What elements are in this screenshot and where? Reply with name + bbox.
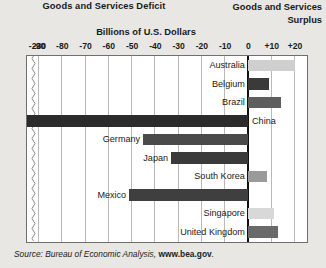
bar-singapore — [248, 208, 274, 219]
chart-figure: Goods and Services Deficit Goods and Ser… — [0, 0, 326, 268]
chart-row: Brazil — [27, 93, 307, 112]
bar-united-kingdom — [248, 226, 278, 237]
chart-row: Mexico — [27, 186, 307, 205]
axis-title: Billions of U.S. Dollars — [30, 27, 262, 37]
bar-label-belgium: Belgium — [212, 79, 245, 89]
chart-row: Japan — [27, 149, 307, 168]
surplus-heading: Goods and Services Surplus — [196, 1, 322, 26]
x-tick-minus40: -40 — [149, 41, 161, 51]
bar-label-singapore: Singapore — [203, 208, 244, 218]
chart-row: Australia — [27, 56, 307, 75]
bar-mexico — [129, 189, 248, 200]
chart-row: China — [27, 112, 307, 131]
surplus-heading-line2: Surplus — [196, 14, 322, 27]
source-suffix: . — [212, 249, 214, 259]
bar-label-china: China — [252, 116, 276, 126]
x-tick-minus70: -70 — [79, 41, 91, 51]
bar-label-mexico: Mexico — [97, 190, 126, 200]
surplus-heading-line1: Goods and Services — [196, 1, 322, 14]
chart-row: South Korea — [27, 167, 307, 186]
x-tick-minus30: -30 — [172, 41, 184, 51]
chart-row: Germany — [27, 130, 307, 149]
bar-label-south-korea: South Korea — [194, 171, 245, 181]
x-tick-plus10: +10 — [264, 41, 279, 51]
bar-germany — [143, 134, 248, 145]
bar-australia — [248, 60, 295, 71]
bar-belgium — [248, 78, 269, 89]
x-tick-minus10: -10 — [219, 41, 231, 51]
x-tick-minus50: -50 — [126, 41, 138, 51]
plot-area: AustraliaBelgiumBrazilChinaGermanyJapanS… — [26, 55, 308, 243]
x-tick-minus20: -20 — [196, 41, 208, 51]
x-tick-0: 0 — [246, 41, 251, 51]
source-website: www.bea.gov — [158, 249, 211, 259]
chart-row: Belgium — [27, 75, 307, 94]
bar-label-germany: Germany — [103, 134, 140, 144]
x-tick-minus60: -60 — [103, 41, 115, 51]
chart-row: United Kingdom — [27, 223, 307, 242]
bar-label-japan: Japan — [143, 153, 168, 163]
bar-japan — [171, 152, 248, 163]
bar-label-united-kingdom: United Kingdom — [180, 227, 245, 237]
source-prefix: Source: Bureau of Economic Analysis, — [14, 249, 158, 259]
bar-label-australia: Australia — [209, 60, 244, 70]
deficit-heading: Goods and Services Deficit — [14, 1, 194, 11]
bar-south-korea — [248, 171, 267, 182]
x-tick-minus90: -90 — [33, 41, 45, 51]
chart-row: Singapore — [27, 204, 307, 223]
x-tick-minus80: -80 — [56, 41, 68, 51]
bar-china — [27, 115, 248, 126]
source-note: Source: Bureau of Economic Analysis, www… — [14, 249, 214, 259]
bar-label-brazil: Brazil — [222, 97, 245, 107]
x-axis-tick-labels: -230-90-80-70-60-50-40-30-20-100+10+20 — [0, 41, 326, 53]
bar-brazil — [248, 97, 281, 108]
x-tick-plus20: +20 — [288, 41, 303, 51]
